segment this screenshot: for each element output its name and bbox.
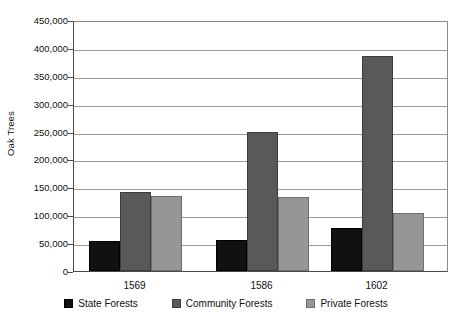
bar-chart: Oak Trees 050,000100,000150,000200,00025… — [0, 0, 452, 323]
bar-1602-community-forests — [362, 56, 393, 271]
y-axis-tick-label: 50,000 — [8, 239, 68, 249]
x-axis-label-1569: 1569 — [95, 280, 175, 291]
legend-swatch-icon — [172, 299, 181, 308]
y-axis-tick-label: 400,000 — [8, 44, 68, 54]
bar-1602-private-forests — [393, 213, 424, 271]
legend-swatch-icon — [64, 299, 73, 308]
bar-1586-private-forests — [278, 197, 309, 271]
bar-1569-private-forests — [151, 196, 182, 271]
y-axis-tick-label: 200,000 — [8, 155, 68, 165]
y-axis-tick-label: 250,000 — [8, 128, 68, 138]
bar-1586-community-forests — [247, 132, 278, 271]
y-axis-tick-label: 350,000 — [8, 72, 68, 82]
bar-1569-state-forests — [89, 241, 120, 271]
legend-swatch-icon — [306, 299, 315, 308]
legend-item-state-forests[interactable]: State Forests — [64, 298, 137, 309]
legend-label: Community Forests — [186, 298, 273, 309]
x-axis-label-1586: 1586 — [222, 280, 302, 291]
y-axis-tick-label: 450,000 — [8, 16, 68, 26]
y-axis-tick-mark — [68, 272, 73, 273]
bar-1586-state-forests — [216, 240, 247, 271]
bar-1569-community-forests — [120, 192, 151, 271]
legend-label: State Forests — [78, 298, 137, 309]
y-axis-tick-label: 100,000 — [8, 211, 68, 221]
gridline — [74, 50, 447, 51]
y-axis-tick-label: 0 — [8, 267, 68, 277]
legend-label: Private Forests — [320, 298, 387, 309]
y-axis-tick-label: 300,000 — [8, 100, 68, 110]
legend-item-community-forests[interactable]: Community Forests — [172, 298, 273, 309]
chart-legend: State ForestsCommunity ForestsPrivate Fo… — [0, 298, 452, 309]
bar-1602-state-forests — [331, 228, 362, 271]
plot-area — [73, 21, 448, 272]
y-axis-tick-label: 150,000 — [8, 183, 68, 193]
legend-item-private-forests[interactable]: Private Forests — [306, 298, 387, 309]
x-axis-label-1602: 1602 — [337, 280, 417, 291]
